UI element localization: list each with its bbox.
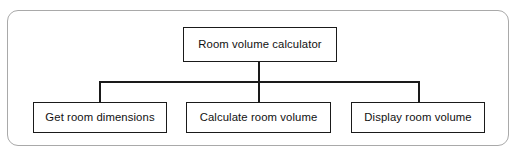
node-get-room-dimensions: Get room dimensions — [33, 102, 167, 133]
connector-drop-display-room-volume — [418, 81, 420, 103]
node-display-room-volume: Display room volume — [351, 102, 485, 133]
connector-root-stem — [258, 60, 260, 83]
node-child-0-label: Get room dimensions — [45, 112, 154, 123]
node-child-2-label: Display room volume — [364, 112, 471, 123]
connector-drop-calculate-room-volume — [258, 81, 260, 103]
node-calculate-room-volume: Calculate room volume — [186, 102, 331, 133]
connector-drop-get-room-dimensions — [99, 81, 101, 103]
node-root-label: Room volume calculator — [198, 39, 321, 50]
structure-chart-figure: Room volume calculator Get room dimensio… — [0, 0, 518, 156]
node-child-1-label: Calculate room volume — [200, 112, 318, 123]
node-room-volume-calculator: Room volume calculator — [183, 27, 337, 62]
